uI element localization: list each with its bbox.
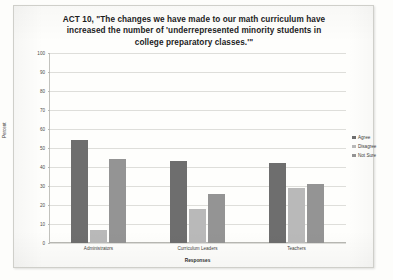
y-axis-tick-label: 60 bbox=[25, 127, 45, 132]
y-axis-tick-label: 90 bbox=[25, 70, 45, 75]
chart-title: ACT 10, "The changes we have made to our… bbox=[44, 14, 344, 48]
plot-area bbox=[49, 53, 346, 243]
gridline bbox=[49, 243, 346, 244]
x-axis-category-labels: AdministratorsCurriculum LeadersTeachers bbox=[49, 246, 346, 258]
y-axis-title: Percent bbox=[2, 122, 7, 138]
x-axis-category-label: Administrators bbox=[49, 246, 148, 251]
y-axis-tick-labels: 0102030405060708090100 bbox=[23, 53, 45, 243]
bar bbox=[269, 163, 287, 243]
chart-title-line-3: college preparatory classes.'" bbox=[44, 37, 344, 48]
legend-label: Not Sure bbox=[358, 153, 376, 158]
y-axis-tick-mark bbox=[48, 110, 50, 111]
y-axis-tick-label: 50 bbox=[25, 146, 45, 151]
gridline bbox=[49, 186, 346, 187]
y-axis-tick-label: 70 bbox=[25, 108, 45, 113]
legend-label: Disagree bbox=[358, 144, 376, 149]
gridline bbox=[49, 148, 346, 149]
gridline bbox=[49, 110, 346, 111]
legend-item[interactable]: Not Sure bbox=[352, 151, 393, 160]
y-axis-tick-mark bbox=[48, 148, 50, 149]
bar bbox=[90, 230, 108, 243]
y-axis-tick-mark bbox=[48, 129, 50, 130]
y-axis-tick-label: 30 bbox=[25, 184, 45, 189]
bar bbox=[208, 194, 226, 243]
chart-legend: AgreeDisagreeNot Sure bbox=[352, 133, 393, 160]
y-axis-tick-label: 40 bbox=[25, 165, 45, 170]
chart-sheet: ACT 10, "The changes we have made to our… bbox=[13, 5, 374, 268]
y-axis-tick-label: 10 bbox=[25, 222, 45, 227]
chart-title-line-1: ACT 10, "The changes we have made to our… bbox=[44, 14, 344, 25]
bar bbox=[170, 161, 188, 243]
y-axis-tick-label: 80 bbox=[25, 89, 45, 94]
bar bbox=[307, 184, 325, 243]
legend-swatch-icon bbox=[352, 145, 356, 149]
gridline bbox=[49, 91, 346, 92]
bar bbox=[189, 209, 207, 243]
bar bbox=[71, 140, 89, 243]
gridline bbox=[49, 72, 346, 73]
y-axis-tick-mark bbox=[48, 243, 50, 244]
y-axis-tick-mark bbox=[48, 224, 50, 225]
y-axis-tick-mark bbox=[48, 205, 50, 206]
legend-swatch-icon bbox=[352, 154, 356, 158]
y-axis-tick-mark bbox=[48, 53, 50, 54]
x-axis-category-label: Curriculum Leaders bbox=[148, 246, 247, 251]
x-axis-category-label: Teachers bbox=[247, 246, 346, 251]
y-axis-tick-mark bbox=[48, 72, 50, 73]
legend-label: Agree bbox=[358, 135, 370, 140]
chart-title-line-2: increased the number of 'underrepresente… bbox=[44, 25, 344, 36]
legend-item[interactable]: Disagree bbox=[352, 142, 393, 151]
y-axis-tick-mark bbox=[48, 91, 50, 92]
legend-swatch-icon bbox=[352, 136, 356, 140]
bar bbox=[109, 159, 127, 243]
bar bbox=[288, 188, 306, 243]
y-axis-tick-mark bbox=[48, 167, 50, 168]
y-axis-tick-label: 100 bbox=[25, 51, 45, 56]
x-axis-title: Responses bbox=[49, 258, 346, 263]
gridline bbox=[49, 167, 346, 168]
y-axis-tick-label: 20 bbox=[25, 203, 45, 208]
y-axis-tick-mark bbox=[48, 186, 50, 187]
scanned-page: ACT 10, "The changes we have made to our… bbox=[0, 0, 393, 280]
gridline bbox=[49, 53, 346, 54]
legend-item[interactable]: Agree bbox=[352, 133, 393, 142]
gridline bbox=[49, 129, 346, 130]
y-axis-tick-label: 0 bbox=[25, 241, 45, 246]
